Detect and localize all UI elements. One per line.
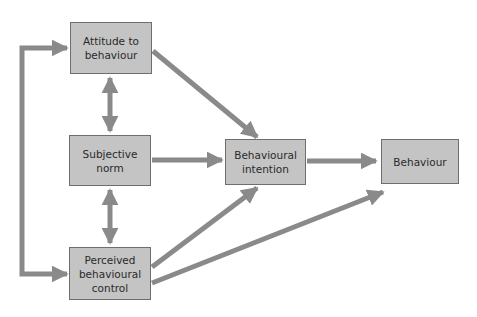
node-label: Subjective norm	[83, 147, 138, 175]
edge-attitude-intention	[153, 51, 257, 137]
node-attitude-to-behaviour: Attitude to behaviour	[70, 22, 152, 74]
edge-pbc-intention	[152, 188, 257, 267]
node-behaviour: Behaviour	[381, 139, 459, 184]
edge-attitude-pbc-loop	[22, 48, 67, 274]
node-label: Attitude to behaviour	[83, 34, 139, 62]
node-label: Behavioural intention	[234, 148, 297, 176]
node-label: Perceived behavioural control	[79, 253, 141, 295]
node-behavioural-intention: Behavioural intention	[225, 139, 306, 185]
edge-pbc-behaviour	[152, 192, 383, 283]
node-subjective-norm: Subjective norm	[69, 135, 151, 186]
node-perceived-behavioural-control: Perceived behavioural control	[69, 247, 151, 300]
node-label: Behaviour	[393, 155, 446, 169]
